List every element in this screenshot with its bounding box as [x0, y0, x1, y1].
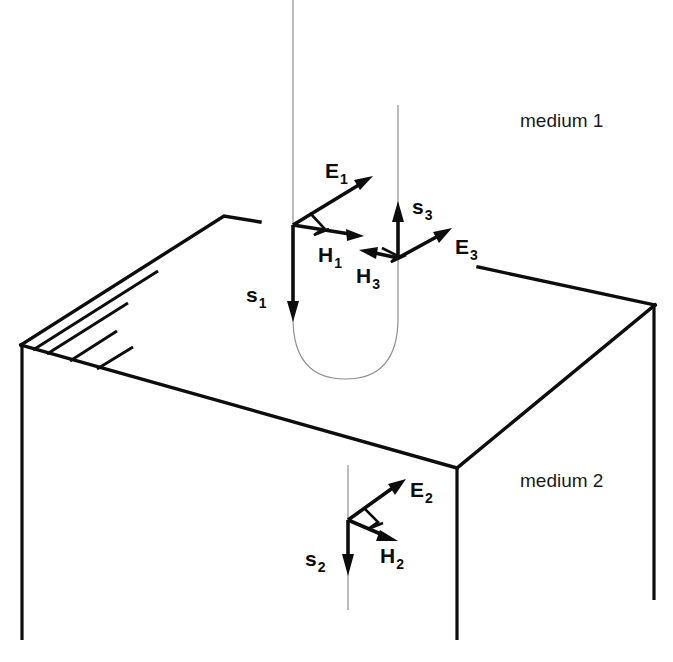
figure-root: E1 H1 s1 E3 H3 s3: [0, 0, 673, 662]
label-E2: E2: [410, 478, 433, 506]
slab-back-right-edge: [478, 267, 655, 305]
ray-paths: [293, 0, 398, 610]
physics-diagram: E1 H1 s1 E3 H3 s3: [0, 0, 673, 662]
reflected-vector-triad: [359, 201, 452, 262]
hatch-tick-1: [47, 303, 128, 354]
vector-H3-arrowhead: [359, 247, 378, 259]
hatch-tick-3: [97, 347, 133, 369]
vector-E3-arrowhead: [433, 228, 452, 243]
vector-s3-arrowhead: [392, 201, 404, 222]
vector-E1-shaft: [293, 183, 362, 225]
label-H1: H1: [318, 243, 342, 271]
label-s2: s2: [305, 547, 326, 575]
label-E3: E3: [455, 235, 478, 263]
interface-slab: [21, 216, 655, 640]
label-H3: H3: [356, 264, 380, 292]
vector-E2-arrowhead: [388, 479, 406, 495]
right-angle-marker-2: [364, 508, 383, 529]
vector-H1-arrowhead: [346, 229, 364, 241]
beam-turn-curve: [293, 318, 398, 379]
vector-s2-arrowhead: [342, 554, 354, 576]
label-s1: s1: [246, 283, 267, 311]
slab-front-left-edge: [21, 345, 457, 468]
label-s3: s3: [412, 195, 433, 223]
slab-front-right-edge: [457, 305, 655, 468]
vector-s1-arrowhead: [287, 301, 299, 322]
label-H2: H2: [380, 544, 404, 572]
medium-1-label: medium 1: [520, 110, 603, 131]
hatch-parallel-line: [33, 271, 158, 350]
label-E1: E1: [325, 159, 348, 187]
medium-2-label: medium 2: [520, 470, 603, 491]
